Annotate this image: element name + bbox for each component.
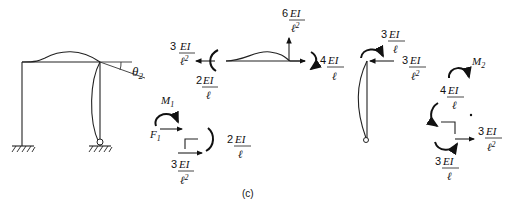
svg-text:EI: EI — [388, 28, 401, 40]
svg-text:6: 6 — [282, 7, 288, 19]
beam-right-moment-label: 4 EI ℓ — [320, 54, 344, 82]
svg-text:EI: EI — [409, 54, 422, 66]
right-joint-corner — [441, 122, 455, 134]
svg-text:ℓ2: ℓ2 — [411, 69, 420, 82]
svg-text:3: 3 — [381, 28, 387, 40]
right-joint-free-body: M2 4 EI ℓ 3 EI ℓ2 3 EI ℓ — [431, 55, 502, 182]
svg-text:2: 2 — [196, 74, 202, 86]
svg-text:ℓ: ℓ — [206, 89, 211, 101]
right-joint-force-label: 3 EI ℓ2 — [478, 125, 502, 153]
svg-text:EI: EI — [178, 158, 191, 170]
svg-text:EI: EI — [179, 40, 192, 52]
svg-text:ℓ2: ℓ2 — [180, 54, 189, 67]
pin-support-right — [89, 139, 112, 152]
m1-moment-arrow — [155, 114, 178, 126]
svg-text:2: 2 — [227, 133, 233, 145]
svg-text:3: 3 — [170, 40, 176, 52]
right-joint-beam-moment-arrow — [431, 103, 438, 126]
svg-text:ℓ: ℓ — [238, 148, 243, 160]
m2-label: M2 — [471, 55, 485, 70]
svg-text:3: 3 — [435, 155, 441, 167]
svg-text:EI: EI — [289, 7, 302, 19]
joint-moment-label: 2 EI ℓ — [227, 133, 251, 160]
right-joint-column-moment-label: 3 EI ℓ — [435, 155, 459, 182]
right-column-deflected — [92, 62, 100, 143]
svg-text:EI: EI — [447, 84, 460, 96]
svg-text:3: 3 — [171, 158, 177, 170]
theta-label: θ2 — [132, 64, 143, 81]
column-force-label: 3 EI ℓ2 — [402, 54, 426, 82]
rotation-arc — [120, 62, 121, 70]
beam-right-shear-label: 6 EI ℓ2 — [282, 7, 305, 34]
svg-text:4: 4 — [440, 84, 446, 96]
left-joint-free-body: M1 F1 2 EI ℓ 3 EI ℓ2 — [149, 94, 251, 186]
beam-deflected — [22, 52, 100, 62]
svg-text:ℓ: ℓ — [393, 43, 398, 55]
svg-text:4: 4 — [320, 54, 326, 66]
svg-text:EI: EI — [327, 54, 340, 66]
joint-dot — [470, 114, 472, 116]
svg-text:ℓ: ℓ — [447, 170, 452, 182]
f1-label: F1 — [149, 128, 161, 143]
joint-moment-arrow — [206, 128, 213, 151]
svg-text:ℓ2: ℓ2 — [180, 173, 189, 186]
portal-frame: θ2 — [12, 52, 145, 152]
svg-text:ℓ: ℓ — [332, 70, 337, 82]
svg-text:ℓ2: ℓ2 — [487, 140, 496, 153]
joint-corner — [185, 139, 198, 149]
svg-text:EI: EI — [485, 125, 498, 137]
svg-text:EI: EI — [202, 74, 215, 86]
m2-moment-arrow — [449, 68, 469, 78]
svg-text:ℓ: ℓ — [452, 99, 457, 111]
fixed-support-left — [12, 146, 35, 152]
column-curve — [358, 61, 367, 138]
svg-text:3: 3 — [478, 125, 484, 137]
svg-text:EI: EI — [234, 133, 247, 145]
right-joint-column-moment-arrow — [435, 142, 457, 150]
beam-left-force-label: 3 EI ℓ2 — [170, 40, 195, 67]
svg-text:ℓ2: ℓ2 — [291, 21, 300, 34]
frame-diagram: θ2 3 EI — [0, 0, 516, 207]
beam-free-body: 3 EI ℓ2 2 EI ℓ 6 EI ℓ2 4 EI ℓ — [170, 7, 344, 101]
right-joint-beam-moment-label: 4 EI ℓ — [440, 84, 464, 111]
column-moment-label: 3 EI ℓ — [381, 28, 405, 55]
m1-label: M1 — [160, 94, 174, 109]
column-free-body: 3 EI ℓ 3 EI ℓ2 — [358, 28, 426, 143]
svg-text:EI: EI — [442, 155, 455, 167]
figure-caption: (c) — [242, 188, 254, 199]
right-moment-arrow — [311, 52, 316, 69]
beam-curve — [226, 52, 290, 61]
svg-text:3: 3 — [402, 54, 408, 66]
column-top-moment-arrow — [361, 49, 383, 58]
column-pin — [364, 138, 369, 143]
joint-force-label: 3 EI ℓ2 — [171, 158, 194, 186]
beam-left-moment-label: 2 EI ℓ — [196, 74, 218, 101]
